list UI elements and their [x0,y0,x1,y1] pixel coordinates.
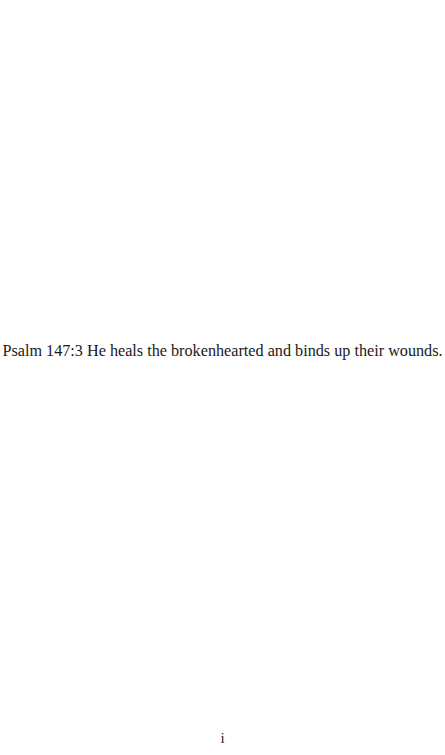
document-page: Psalm 147:3 He heals the brokenhearted a… [0,0,445,755]
epigraph-text: Psalm 147:3 He heals the brokenhearted a… [0,340,445,362]
page-number: i [0,729,445,747]
